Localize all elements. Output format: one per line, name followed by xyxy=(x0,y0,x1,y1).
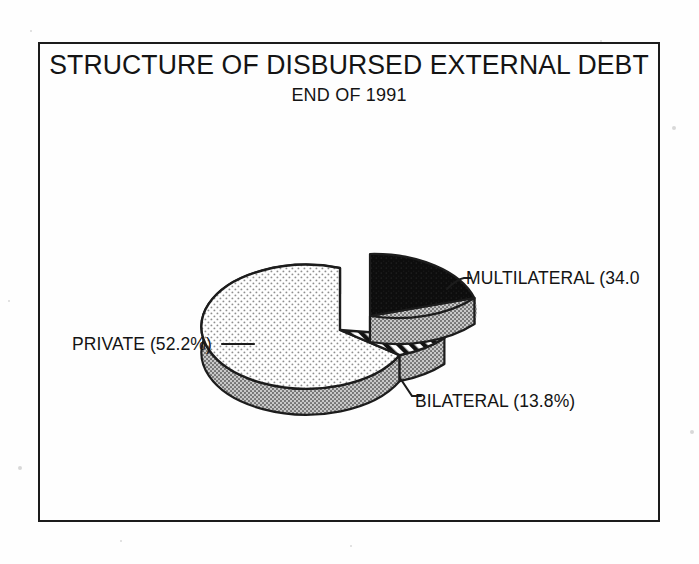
slice-multilateral-exploded xyxy=(370,254,477,344)
scan-speckle xyxy=(120,540,122,542)
label-multilateral: MULTILATERAL (34.0 xyxy=(466,268,640,288)
scan-speckle xyxy=(30,30,32,32)
label-private: PRIVATE (52.2%) xyxy=(72,334,212,354)
scan-speckle xyxy=(690,430,694,434)
chart-frame-right-edge xyxy=(658,42,660,522)
scanned-page: STRUCTURE OF DISBURSED EXTERNAL DEBT END… xyxy=(0,0,699,564)
scan-speckle xyxy=(350,545,352,547)
scan-speckle xyxy=(18,466,22,470)
label-bilateral: BILATERAL (13.8%) xyxy=(415,391,575,411)
scan-speckle xyxy=(8,300,10,302)
scan-speckle xyxy=(600,40,602,42)
scan-speckle xyxy=(672,126,676,130)
pie-chart-stage: MULTILATERAL (34.0 PRIVATE (52.2%) BILAT… xyxy=(0,0,699,564)
